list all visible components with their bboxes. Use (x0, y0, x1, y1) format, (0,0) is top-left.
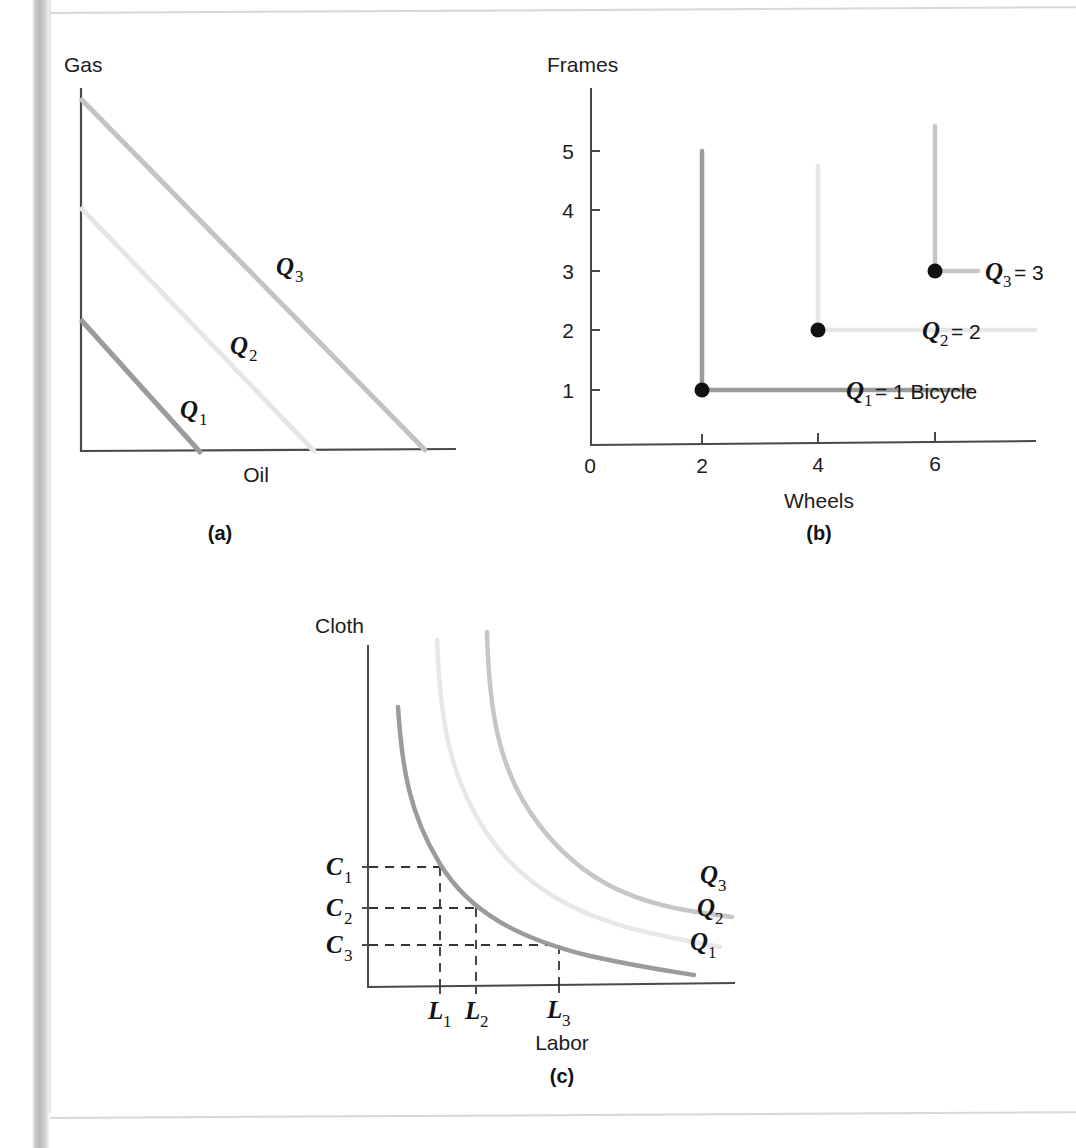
panel-a-chart: Gas Q 3 Q 2 Q 1 Oil (a) (50, 40, 520, 560)
scan-gutter-artifact (32, 0, 49, 1148)
panel-b-label-q2-letter: Q (922, 317, 940, 344)
panel-b-y-tick-label-3: 3 (562, 260, 574, 283)
panel-c-x-tick-label-l3: L 3 (546, 996, 571, 1030)
panel-c-label-q1-letter: Q (690, 928, 708, 955)
panel-c: Cloth (290, 600, 790, 1100)
panel-c-y-tick-label-c2: C 2 (326, 894, 353, 928)
panel-c-x-tick-label-l1: L 1 (427, 997, 452, 1031)
panel-c-x-axis-label: Labor (535, 1031, 589, 1054)
panel-c-isoquant-q2 (437, 640, 720, 947)
panel-b-y-tick-label-1: 1 (562, 379, 574, 402)
panel-a-isoquant-q1 (82, 321, 200, 452)
panel-b-label-q3-sub: 3 (1003, 272, 1012, 291)
panel-c-label-q3: Q 3 (700, 861, 727, 895)
panel-b-chart: Frames 5 4 3 2 1 0 (530, 40, 1076, 560)
panel-c-label-q3-sub: 3 (718, 876, 727, 895)
panel-c-chart: Cloth (290, 600, 790, 1100)
panel-a-caption: (a) (208, 522, 232, 544)
panel-b-corner-point-q3 (928, 264, 943, 279)
panel-b-y-ticks: 5 4 3 2 1 (562, 140, 600, 402)
panel-a-label-q1: Q 1 (180, 396, 208, 429)
panel-b-x-tick-label-4: 4 (812, 453, 824, 476)
panel-a-x-axis (80, 449, 456, 451)
panel-c-y-tick-label-c3: C 3 (326, 931, 353, 965)
panel-c-label-q1: Q 1 (690, 928, 717, 962)
panel-a-x-axis-label: Oil (243, 463, 269, 486)
panel-c-x-tick-label-l2-letter: L (464, 997, 480, 1024)
panel-c-x-tick-label-l3-sub: 3 (562, 1011, 571, 1030)
panel-b: Frames 5 4 3 2 1 0 (530, 40, 1076, 560)
panel-a-label-q1-sub: 1 (199, 410, 208, 429)
figure-page: Gas Q 3 Q 2 Q 1 Oil (a) (0, 0, 1076, 1148)
panel-c-y-tick-label-c3-letter: C (326, 931, 343, 958)
panel-b-isoquant-q2-path (818, 166, 1035, 330)
panel-b-label-q1-sub: 1 (864, 391, 873, 410)
panel-b-label-q3: Q 3 = 3 (985, 258, 1044, 291)
panel-b-label-q2-sub: 2 (940, 331, 949, 350)
panel-c-x-tick-label-l1-sub: 1 (443, 1012, 452, 1031)
panel-c-label-q2-sub: 2 (715, 909, 724, 928)
panel-a-isoquant-q3 (82, 100, 425, 450)
panel-b-label-q1-letter: Q (846, 377, 864, 404)
panel-b-label-q2-value: = 2 (951, 320, 981, 343)
panel-b-isoquant-q3 (928, 126, 979, 279)
panel-c-x-tick-label-l3-letter: L (546, 996, 562, 1023)
panel-c-label-q1-sub: 1 (708, 943, 717, 962)
panel-c-y-tick-label-c3-sub: 3 (344, 946, 353, 965)
panel-b-y-axis-label: Frames (547, 53, 618, 76)
panel-c-label-q2: Q 2 (697, 894, 724, 928)
panel-a: Gas Q 3 Q 2 Q 1 Oil (a) (50, 40, 520, 560)
panel-c-y-tick-label-c1: C 1 (326, 853, 353, 887)
panel-b-x-ticks: 0 2 4 6 (584, 432, 941, 477)
panel-b-corner-point-q1 (695, 383, 710, 398)
panel-a-label-q3-sub: 3 (295, 267, 304, 286)
panel-b-x-tick-label-2: 2 (696, 454, 708, 477)
panel-c-reference-lines (369, 867, 559, 987)
panel-c-label-q3-letter: Q (700, 861, 718, 888)
panel-b-x-tick-label-6: 6 (929, 452, 941, 475)
panel-c-y-tick-label-c2-letter: C (326, 894, 343, 921)
panel-b-isoquant-q3-path (935, 126, 978, 271)
panel-b-caption: (b) (806, 522, 832, 544)
panel-c-y-tick-label-c1-letter: C (326, 853, 343, 880)
panel-a-label-q3-letter: Q (276, 253, 294, 280)
panel-b-label-q3-value: = 3 (1014, 261, 1044, 284)
panel-b-label-q3-letter: Q (985, 258, 1003, 285)
panel-c-x-axis (367, 983, 735, 987)
panel-c-y-tick-label-c1-sub: 1 (344, 868, 353, 887)
panel-c-y-axis-label: Cloth (315, 614, 364, 637)
panel-b-corner-point-q2 (811, 323, 826, 338)
panel-b-label-q1: Q 1 = 1 Bicycle (846, 377, 977, 410)
panel-b-isoquant-q2 (811, 166, 1036, 338)
panel-a-y-axis-label: Gas (64, 53, 103, 76)
panel-b-y-tick-label-2: 2 (562, 319, 574, 342)
panel-a-label-q2-letter: Q (230, 332, 248, 359)
panel-b-label-q2: Q 2 = 2 (922, 317, 981, 350)
panel-b-y-tick-label-4: 4 (562, 199, 574, 222)
panel-b-label-q1-value: = 1 Bicycle (875, 380, 977, 403)
panel-a-label-q2-sub: 2 (249, 346, 258, 365)
panel-c-x-ticks (440, 986, 559, 994)
panel-b-x-axis (590, 441, 1036, 445)
footer-rule (50, 1111, 1076, 1119)
panel-c-y-tick-label-c2-sub: 2 (344, 909, 353, 928)
panel-a-label-q2: Q 2 (230, 332, 258, 365)
panel-c-x-tick-label-l2-sub: 2 (480, 1012, 489, 1031)
panel-c-x-tick-label-l2: L 2 (464, 997, 489, 1031)
panel-b-x-axis-label: Wheels (784, 489, 854, 512)
panel-b-x-tick-label-0: 0 (584, 454, 596, 477)
panel-b-y-tick-label-5: 5 (562, 140, 574, 163)
panel-a-label-q1-letter: Q (180, 396, 198, 423)
panel-c-label-q2-letter: Q (697, 894, 715, 921)
panel-c-caption: (c) (550, 1065, 574, 1087)
panel-a-label-q3: Q 3 (276, 253, 304, 286)
panel-c-x-tick-label-l1-letter: L (427, 997, 443, 1024)
header-rule (50, 6, 1076, 14)
